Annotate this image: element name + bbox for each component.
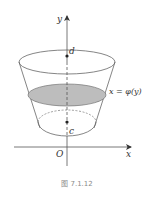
bottom-ellipse-back bbox=[38, 110, 96, 122]
curve-label: x = φ(y) bbox=[109, 87, 142, 96]
origin-label: O bbox=[56, 149, 64, 159]
x-axis-label: x bbox=[126, 149, 131, 159]
point-c bbox=[65, 120, 68, 123]
d-label: d bbox=[69, 46, 75, 56]
figure-caption: 图 7.1.12 bbox=[61, 180, 93, 188]
y-axis-label: y bbox=[56, 14, 63, 24]
c-label: c bbox=[69, 126, 74, 136]
solid-of-revolution-diagram: y d c x = φ(y) O x 图 7.1.12 bbox=[0, 0, 150, 204]
